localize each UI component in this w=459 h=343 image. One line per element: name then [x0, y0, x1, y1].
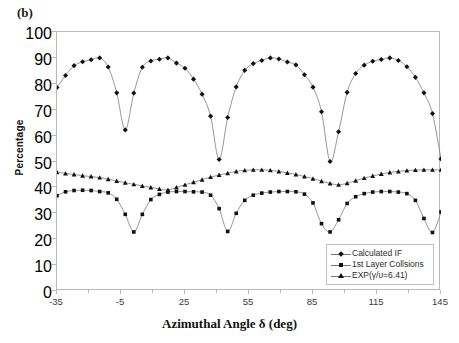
data-point-marker	[303, 192, 307, 196]
chart-legend: Calculated IF 1st Layer Collsions EXP(γ/…	[326, 244, 434, 285]
data-point-marker	[183, 190, 187, 194]
data-point-marker	[140, 65, 145, 70]
data-point-marker	[345, 90, 350, 95]
data-point-marker	[81, 188, 85, 192]
data-point-marker	[310, 85, 315, 90]
data-point-marker	[97, 55, 102, 60]
data-point-marker	[98, 190, 102, 194]
data-point-marker	[354, 195, 358, 199]
data-point-marker	[285, 59, 290, 64]
data-point-marker	[345, 202, 349, 206]
x-tick-label: 55	[228, 296, 268, 307]
series-1	[57, 55, 441, 164]
legend-label: EXP(γ/υ=6.41)	[352, 270, 407, 281]
data-point-marker	[277, 190, 281, 194]
data-point-marker	[362, 192, 366, 196]
data-point-marker	[157, 57, 162, 62]
data-point-marker	[430, 111, 435, 116]
legend-item-first-layer-collisions: 1st Layer Collsions	[330, 259, 429, 270]
legend-label: Calculated IF	[352, 248, 402, 259]
series-line	[57, 190, 441, 232]
data-point-marker	[286, 190, 290, 194]
data-point-marker	[175, 190, 179, 194]
data-point-marker	[225, 115, 230, 120]
data-point-marker	[200, 190, 204, 194]
y-tick-label: 90	[20, 51, 52, 69]
series-line	[57, 58, 441, 162]
data-point-marker	[158, 193, 162, 197]
data-point-marker	[64, 190, 68, 194]
legend-marker-square-icon	[330, 260, 352, 270]
data-point-marker	[243, 199, 247, 203]
data-point-marker	[405, 192, 409, 196]
data-point-marker	[226, 230, 230, 234]
data-point-marker	[217, 207, 221, 211]
data-point-marker	[268, 55, 273, 60]
data-point-marker	[336, 129, 341, 134]
data-point-marker	[234, 84, 239, 89]
data-point-marker	[72, 189, 76, 193]
y-tick-label: 80	[20, 77, 52, 95]
data-point-marker	[123, 213, 127, 217]
data-point-marker	[439, 210, 441, 214]
data-point-marker	[320, 222, 324, 226]
data-point-marker	[311, 201, 315, 205]
legend-marker-diamond-icon	[330, 249, 352, 259]
data-point-marker	[371, 190, 375, 194]
data-point-marker	[370, 59, 375, 64]
data-point-marker	[438, 156, 441, 161]
data-point-marker	[114, 90, 119, 95]
data-point-marker	[251, 193, 255, 197]
data-point-marker	[328, 230, 332, 234]
series-3	[57, 167, 441, 192]
y-tick-label: 20	[20, 232, 52, 250]
data-point-marker	[421, 90, 426, 95]
data-point-marker	[89, 57, 94, 62]
y-tick-label: 100	[20, 25, 52, 43]
x-tick-label: 145	[420, 296, 459, 307]
data-point-marker	[141, 213, 145, 217]
legend-label: 1st Layer Collsions	[352, 259, 424, 270]
data-point-marker	[397, 190, 401, 194]
x-tick-label: -35	[36, 296, 76, 307]
series-line	[57, 170, 441, 190]
y-tick-label: 70	[20, 103, 52, 121]
data-point-marker	[414, 199, 418, 203]
data-point-marker	[259, 58, 264, 63]
x-tick-label: 115	[356, 296, 396, 307]
y-tick-label: 50	[20, 155, 52, 173]
data-point-marker	[379, 190, 383, 194]
data-point-marker	[106, 64, 111, 69]
data-point-marker	[379, 57, 384, 62]
data-point-marker	[132, 230, 136, 234]
legend-marker-triangle-icon	[330, 271, 352, 281]
x-tick-label: 25	[164, 296, 204, 307]
data-point-marker	[413, 75, 418, 80]
data-point-marker	[260, 191, 264, 195]
data-point-marker	[269, 190, 273, 194]
data-point-marker	[191, 77, 196, 82]
data-point-marker	[192, 190, 196, 194]
data-point-marker	[89, 189, 93, 193]
data-point-marker	[431, 231, 435, 235]
legend-item-calculated-if: Calculated IF	[330, 248, 429, 259]
y-tick-label: 10	[20, 258, 52, 276]
data-point-marker	[131, 91, 136, 96]
data-point-marker	[388, 190, 392, 194]
data-point-marker	[115, 198, 119, 202]
data-point-marker	[251, 61, 256, 66]
data-point-marker	[217, 157, 222, 162]
legend-item-exp: EXP(γ/υ=6.41)	[330, 270, 429, 281]
data-point-marker	[396, 58, 401, 63]
y-tick-label: 60	[20, 129, 52, 147]
data-point-marker	[200, 92, 205, 97]
data-point-marker	[234, 212, 238, 216]
data-point-marker	[80, 59, 85, 64]
data-point-marker	[106, 191, 110, 195]
data-point-marker	[387, 55, 392, 60]
chart-root: (b) Percentage 0102030405060708090100 -3…	[0, 0, 459, 343]
data-point-marker	[422, 217, 426, 221]
data-point-marker	[57, 194, 59, 198]
series-2	[57, 188, 441, 234]
data-point-marker	[276, 56, 281, 61]
